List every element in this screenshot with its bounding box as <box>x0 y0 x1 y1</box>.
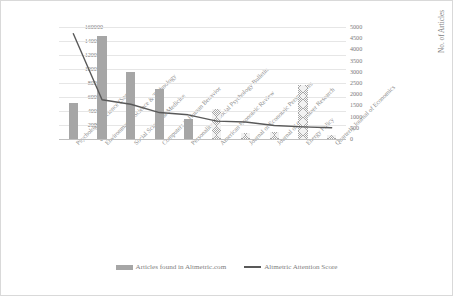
y-axis-right-tick-label: 5000 <box>350 24 362 30</box>
chart-figure: AAS on journal level No. of Articles 020… <box>0 0 453 296</box>
y-axis-right-tick-label: 3500 <box>350 58 362 64</box>
y-axis-right-tick-label: 4000 <box>350 46 362 52</box>
bar-swatch-icon <box>116 265 133 270</box>
y-axis-right-tick-label: 0 <box>350 136 353 142</box>
line-swatch-icon <box>244 266 261 268</box>
plot-area <box>59 27 346 139</box>
legend-label-bars: Articles found in Altmetric.com <box>136 263 227 271</box>
y-axis-right-tick-label: 1500 <box>350 102 362 108</box>
legend-label-line: Altmetric Attention Score <box>264 263 337 271</box>
x-axis-baseline <box>59 139 346 140</box>
chart-legend: Articles found in Altmetric.com Altmetri… <box>1 263 452 271</box>
y-axis-right-tick-label: 4500 <box>350 35 362 41</box>
y-axis-right-title: No. of Articles <box>438 10 445 53</box>
y-axis-right-tick-label: 3000 <box>350 69 362 75</box>
y-axis-right-tick-label: 2000 <box>350 91 362 97</box>
line-series <box>59 27 346 139</box>
y-axis-right-tick-label: 2500 <box>350 80 362 86</box>
legend-item-bars[interactable]: Articles found in Altmetric.com <box>116 263 227 271</box>
legend-item-line[interactable]: Altmetric Attention Score <box>244 263 337 271</box>
